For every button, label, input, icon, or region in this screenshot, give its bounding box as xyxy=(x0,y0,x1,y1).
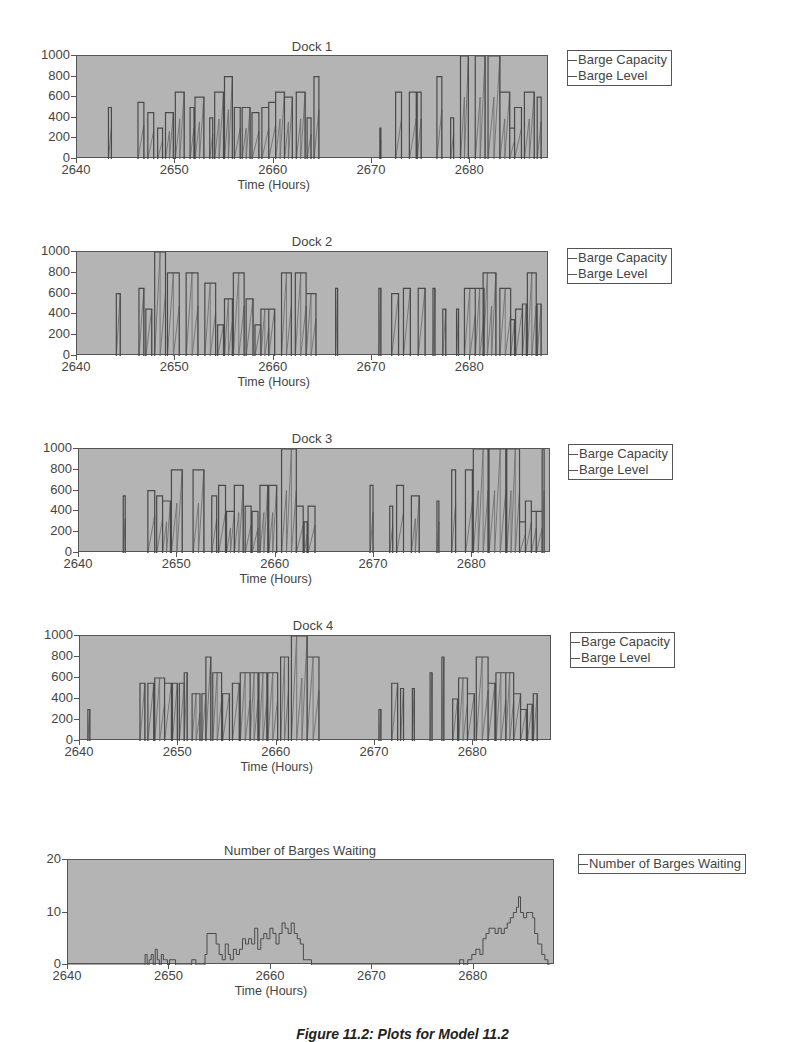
legend-line-icon xyxy=(568,60,577,61)
chart-legend: Barge CapacityBarge Level xyxy=(567,50,672,86)
chart-title: Dock 4 xyxy=(293,618,333,633)
x-tick-label: 2670 xyxy=(357,162,386,177)
x-tick-label: 2670 xyxy=(357,968,386,983)
x-axis-title: Time (Hours) xyxy=(235,984,307,998)
x-tick-label: 2660 xyxy=(258,359,287,374)
y-tick-mark xyxy=(62,859,67,860)
x-tick-label: 2660 xyxy=(261,744,290,759)
x-axis-title: Time (Hours) xyxy=(240,760,312,774)
y-tick-mark xyxy=(71,55,76,56)
x-tick-label: 2660 xyxy=(255,968,284,983)
chart-legend: Barge CapacityBarge Level xyxy=(570,632,675,668)
legend-line-icon xyxy=(569,454,578,455)
legend-label: Number of Barges Waiting xyxy=(589,856,741,872)
y-tick-label: 800 xyxy=(32,461,72,476)
barge-level-line xyxy=(123,449,544,553)
y-tick-label: 600 xyxy=(32,482,72,497)
legend-label: Barge Capacity xyxy=(578,52,667,68)
legend-line-icon xyxy=(568,76,577,77)
y-tick-mark xyxy=(74,656,79,657)
chart-legend: Number of Barges Waiting xyxy=(578,854,746,874)
y-tick-label: 1000 xyxy=(30,47,70,62)
legend-item: Barge Capacity xyxy=(568,52,667,68)
y-tick-mark xyxy=(73,469,78,470)
x-tick-label: 2680 xyxy=(458,968,487,983)
x-axis-title: Time (Hours) xyxy=(239,572,311,586)
barge-capacity-line xyxy=(116,252,541,356)
x-tick-label: 2650 xyxy=(160,359,189,374)
y-tick-label: 200 xyxy=(30,129,70,144)
y-tick-mark xyxy=(71,137,76,138)
y-tick-label: 1000 xyxy=(30,243,70,258)
y-tick-label: 400 xyxy=(32,502,72,517)
y-tick-label: 800 xyxy=(33,648,73,663)
x-tick-label: 2680 xyxy=(455,162,484,177)
x-tick-label: 2650 xyxy=(154,968,183,983)
legend-item: Barge Capacity xyxy=(568,250,667,266)
plot-lines xyxy=(80,636,552,741)
y-tick-mark xyxy=(62,912,67,913)
x-tick-label: 2640 xyxy=(62,359,91,374)
legend-label: Barge Level xyxy=(578,68,647,84)
legend-item: Barge Level xyxy=(569,462,668,478)
y-tick-mark xyxy=(71,251,76,252)
x-axis-title: Time (Hours) xyxy=(237,178,309,192)
legend-item: Barge Level xyxy=(568,68,667,84)
legend-line-icon xyxy=(569,470,578,471)
y-tick-label: 1000 xyxy=(32,440,72,455)
y-tick-label: 600 xyxy=(30,88,70,103)
y-tick-label: 600 xyxy=(33,669,73,684)
y-tick-label: 600 xyxy=(30,285,70,300)
y-tick-label: 800 xyxy=(30,264,70,279)
legend-item: Barge Capacity xyxy=(569,446,668,462)
legend-line-icon xyxy=(579,864,588,865)
plot-area xyxy=(76,251,548,355)
y-tick-label: 400 xyxy=(30,109,70,124)
chart-title: Dock 3 xyxy=(292,431,332,446)
x-axis-title: Time (Hours) xyxy=(237,375,309,389)
x-tick-label: 2680 xyxy=(455,359,484,374)
barge-level-line xyxy=(116,252,541,356)
y-tick-mark xyxy=(74,677,79,678)
y-tick-mark xyxy=(73,448,78,449)
legend-item: Barge Capacity xyxy=(571,634,670,650)
y-tick-mark xyxy=(74,719,79,720)
y-tick-mark xyxy=(71,272,76,273)
plot-area xyxy=(76,55,548,158)
x-tick-label: 2650 xyxy=(163,744,192,759)
plot-lines xyxy=(77,252,549,356)
plot-lines xyxy=(79,449,551,553)
legend-label: Barge Capacity xyxy=(579,446,668,462)
y-tick-mark xyxy=(74,635,79,636)
legend-label: Barge Level xyxy=(578,266,647,282)
y-tick-label: 400 xyxy=(30,305,70,320)
chart-legend: Barge CapacityBarge Level xyxy=(567,248,672,284)
legend-label: Barge Capacity xyxy=(581,634,670,650)
y-tick-mark xyxy=(73,531,78,532)
y-tick-label: 800 xyxy=(30,68,70,83)
y-tick-mark xyxy=(71,117,76,118)
plot-lines xyxy=(68,860,555,965)
y-tick-mark xyxy=(71,96,76,97)
x-tick-label: 2670 xyxy=(357,359,386,374)
y-tick-mark xyxy=(74,698,79,699)
chart-title: Dock 1 xyxy=(292,39,332,54)
legend-line-icon xyxy=(571,658,580,659)
x-tick-label: 2640 xyxy=(64,556,93,571)
y-tick-mark xyxy=(73,510,78,511)
x-tick-label: 2640 xyxy=(65,744,94,759)
plot-area xyxy=(67,859,554,964)
x-tick-label: 2680 xyxy=(458,744,487,759)
legend-label: Barge Level xyxy=(579,462,648,478)
x-tick-label: 2670 xyxy=(359,556,388,571)
legend-label: Barge Capacity xyxy=(578,250,667,266)
plot-area xyxy=(79,635,551,740)
y-tick-mark xyxy=(73,490,78,491)
y-tick-mark xyxy=(71,334,76,335)
chart-title: Dock 2 xyxy=(292,234,332,249)
plot-lines xyxy=(77,56,549,159)
x-tick-label: 2640 xyxy=(62,162,91,177)
y-tick-mark xyxy=(71,293,76,294)
x-tick-label: 2660 xyxy=(260,556,289,571)
plot-area xyxy=(78,448,550,552)
